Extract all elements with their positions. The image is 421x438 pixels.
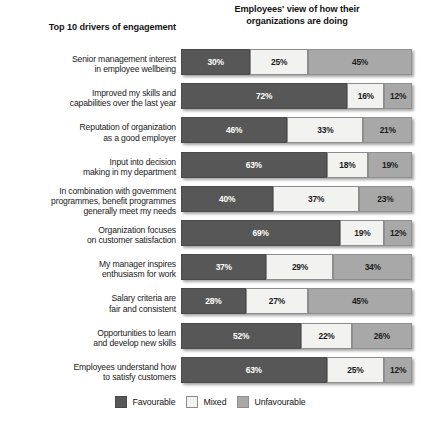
bar-segment-value: 12%	[390, 91, 406, 101]
row-label-line: making in my department	[4, 167, 176, 177]
stacked-bar: 63%18%19%	[181, 152, 412, 178]
bar-segment-mixed: 16%	[347, 83, 384, 109]
legend-swatch-favourable-icon	[115, 396, 127, 408]
bar-segment-value: 28%	[205, 296, 221, 306]
bar-segment-value: 69%	[253, 228, 269, 238]
bar-segment-value: 29%	[292, 262, 308, 272]
chart-caption	[0, 428, 421, 438]
row-label: Improved my skills andcapabilities over …	[4, 88, 176, 108]
bar-segment-favourable: 46%	[181, 117, 287, 143]
row-label-line: In combination with government	[4, 186, 176, 196]
chart-row: Senior management interestin employee we…	[0, 47, 421, 81]
row-label-line: enthusiasm for work	[4, 269, 176, 279]
row-label-line: Input into decision	[4, 156, 176, 166]
chart-row: Reputation of organizationas a good empl…	[0, 115, 421, 149]
bar-segment-value: 18%	[339, 160, 355, 170]
row-label: Opportunities to learnand develop new sk…	[4, 327, 176, 347]
bar-segment-value: 22%	[318, 331, 334, 341]
stacked-bar: 46%33%21%	[181, 117, 412, 143]
row-label-line: Opportunities to learn	[4, 327, 176, 337]
bar-segment-value: 25%	[347, 365, 363, 375]
chart-header-left: Top 10 drivers of engagement	[4, 22, 176, 32]
legend-swatch-unfavourable-icon	[237, 396, 249, 408]
row-label-line: Improved my skills and	[4, 88, 176, 98]
engagement-drivers-chart: Top 10 drivers of engagement Employees' …	[0, 0, 421, 438]
bar-segment-unfavourable: 19%	[368, 152, 412, 178]
bar-segment-value: 19%	[354, 228, 370, 238]
stacked-bar: 37%29%34%	[181, 254, 412, 280]
row-label: Employees understand howto satisfy custo…	[4, 362, 176, 382]
row-label-line: Salary criteria are	[4, 293, 176, 303]
chart-row: Input into decisionmaking in my departme…	[0, 150, 421, 184]
bar-segment-unfavourable: 26%	[352, 323, 412, 349]
chart-header-right-line1: Employees' view of how their	[235, 4, 360, 14]
chart-row: Salary criteria arefair and consistent28…	[0, 286, 421, 320]
bar-segment-mixed: 29%	[266, 254, 333, 280]
chart-row: In combination with governmentprogrammes…	[0, 184, 421, 218]
stacked-bar: 40%37%23%	[181, 186, 412, 212]
legend-item-favourable: Favourable	[115, 396, 175, 408]
chart-row: Organization focuseson customer satisfac…	[0, 218, 421, 252]
bar-segment-mixed: 33%	[287, 117, 363, 143]
legend-label-mixed: Mixed	[203, 397, 226, 407]
bar-segment-mixed: 27%	[246, 288, 308, 314]
bar-segment-mixed: 25%	[250, 49, 308, 75]
row-label-line: programmes, benefit programmes	[4, 196, 176, 206]
bar-segment-mixed: 37%	[273, 186, 358, 212]
stacked-bar: 63%25%12%	[181, 357, 412, 383]
bar-segment-value: 25%	[271, 57, 287, 67]
bar-segment-favourable: 52%	[181, 323, 301, 349]
bar-segment-mixed: 18%	[327, 152, 369, 178]
row-label: Senior management interestin employee we…	[4, 54, 176, 74]
chart-row: Improved my skills andcapabilities over …	[0, 81, 421, 115]
row-label-line: fair and consistent	[4, 303, 176, 313]
row-label-line: to satisfy customers	[4, 372, 176, 382]
bar-segment-unfavourable: 12%	[384, 220, 412, 246]
row-label-line: My manager inspires	[4, 259, 176, 269]
row-label-line: Organization focuses	[4, 225, 176, 235]
stacked-bar: 30%25%45%	[181, 49, 412, 75]
bar-segment-value: 33%	[317, 125, 333, 135]
row-label: In combination with governmentprogrammes…	[4, 186, 176, 217]
bar-segment-value: 40%	[219, 194, 235, 204]
stacked-bar: 52%22%26%	[181, 323, 412, 349]
row-label: Input into decisionmaking in my departme…	[4, 156, 176, 176]
legend-swatch-mixed-icon	[186, 396, 198, 408]
bar-segment-mixed: 19%	[340, 220, 384, 246]
bar-segment-mixed: 25%	[327, 357, 385, 383]
legend-label-favourable: Favourable	[132, 397, 175, 407]
row-label-line: on customer satisfaction	[4, 235, 176, 245]
chart-row: My manager inspiresenthusiasm for work37…	[0, 252, 421, 286]
legend-item-mixed: Mixed	[186, 396, 226, 408]
row-label-line: Employees understand how	[4, 362, 176, 372]
bar-segment-value: 12%	[390, 365, 406, 375]
row-label: Organization focuseson customer satisfac…	[4, 225, 176, 245]
bar-segment-unfavourable: 45%	[308, 49, 412, 75]
bar-segment-value: 19%	[382, 160, 398, 170]
chart-row: Employees understand howto satisfy custo…	[0, 355, 421, 389]
bar-segment-favourable: 30%	[181, 49, 250, 75]
bar-segment-favourable: 72%	[181, 83, 347, 109]
bar-segment-favourable: 40%	[181, 186, 273, 212]
legend-item-unfavourable: Unfavourable	[237, 396, 305, 408]
bar-segment-value: 63%	[246, 160, 262, 170]
row-label-line: as a good employer	[4, 132, 176, 142]
bar-segment-value: 16%	[358, 91, 374, 101]
stacked-bar: 72%16%12%	[181, 83, 412, 109]
bar-segment-unfavourable: 34%	[333, 254, 412, 280]
bar-segment-unfavourable: 45%	[308, 288, 412, 314]
bar-segment-unfavourable: 23%	[359, 186, 412, 212]
stacked-bar: 69%19%12%	[181, 220, 412, 246]
bar-segment-unfavourable: 12%	[384, 357, 412, 383]
bar-segment-value: 63%	[246, 365, 262, 375]
row-label: My manager inspiresenthusiasm for work	[4, 259, 176, 279]
row-label-line: generally meet my needs	[4, 206, 176, 216]
row-label: Salary criteria arefair and consistent	[4, 293, 176, 313]
chart-header-right: Employees' view of how their organizatio…	[181, 4, 413, 27]
bar-segment-unfavourable: 21%	[363, 117, 412, 143]
bar-segment-value: 37%	[308, 194, 324, 204]
bar-segment-favourable: 63%	[181, 357, 327, 383]
bar-segment-value: 12%	[390, 228, 406, 238]
chart-row: Opportunities to learnand develop new sk…	[0, 321, 421, 355]
stacked-bar: 28%27%45%	[181, 288, 412, 314]
